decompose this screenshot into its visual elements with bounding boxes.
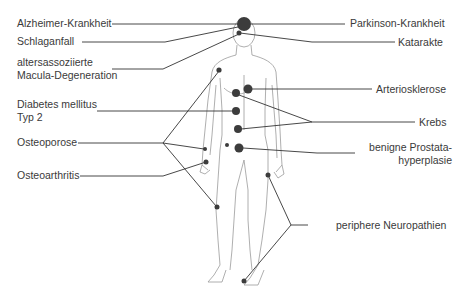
disease-body-diagram: Alzheimer-Krankheit Schlaganfall altersa… [0,0,465,299]
dot-heart [244,85,253,94]
line-amd [112,34,239,69]
label-bph-line2: hyperplasie [398,154,452,167]
label-diabetes-line2: Typ 2 [17,111,43,124]
label-osteoporose: Osteoporose [17,136,77,149]
dot-pancreas [232,107,240,115]
dot-hand-left [204,160,209,165]
line-bph [243,148,355,153]
label-katarakte: Katarakte [398,36,443,49]
dot-foot [242,279,247,284]
label-schlaganfall: Schlaganfall [17,35,74,48]
dot-knee [215,205,220,210]
dot-eye [237,31,242,36]
affected-site-dots [203,17,271,284]
dot-abdomen [234,125,242,133]
dot-prostate [235,144,244,153]
human-body-outline [200,19,284,285]
dot-chest [232,89,240,97]
label-parkinson: Parkinson-Krankheit [350,17,445,30]
dot-hand-right [266,173,271,178]
dot-pelvis [225,143,229,147]
dot-wrist [203,147,207,151]
label-bph-line1: benigne Prostata- [369,141,452,154]
label-arteriosklerose: Arteriosklerose [376,83,446,96]
leader-lines [78,24,415,281]
label-osteoarthritis: Osteoarthritis [17,169,79,182]
label-neuropathien: periphere Neuropathien [336,219,446,232]
dot-shoulder [216,67,221,72]
line-osteoarthritis [80,162,206,176]
dot-brain [237,17,251,31]
label-diabetes-line1: Diabetes mellitus [17,98,97,111]
label-alzheimer: Alzheimer-Krankheit [17,17,112,30]
line-katarakte [240,33,395,42]
label-amd-line2: Macula-Degeneration [17,69,117,82]
label-amd-line1: altersassoziierte [17,56,93,69]
label-krebs: Krebs [419,116,446,129]
